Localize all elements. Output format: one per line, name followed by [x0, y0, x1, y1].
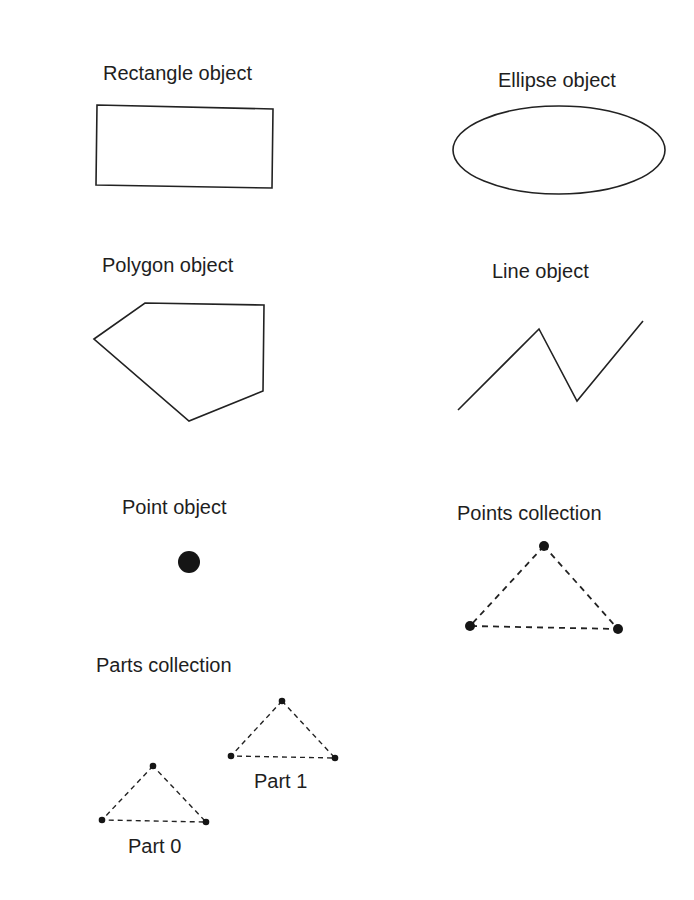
part-0-label: Part 0 [128, 835, 181, 858]
diagram-canvas [0, 0, 694, 900]
vertex-point [99, 817, 106, 824]
point-label: Point object [122, 496, 227, 519]
ellipse-label: Ellipse object [498, 69, 616, 92]
rectangle-shape [96, 105, 273, 188]
vertex-point [465, 621, 475, 631]
polygon-shape [94, 303, 264, 421]
part-0-shape [99, 763, 210, 826]
point-shape [178, 551, 200, 573]
vertex-point [228, 753, 235, 760]
part-1-label: Part 1 [254, 770, 307, 793]
vertex-point [279, 698, 286, 705]
parts-collection-label: Parts collection [96, 654, 232, 677]
vertex-point [613, 624, 623, 634]
part-1-shape [228, 698, 339, 762]
vertex-point [332, 755, 339, 762]
vertex-point [539, 541, 549, 551]
vertex-point [203, 819, 210, 826]
polygon-label: Polygon object [102, 254, 233, 277]
points-collection-shape [465, 541, 623, 634]
points-collection-label: Points collection [457, 502, 602, 525]
vertex-point [150, 763, 157, 770]
line-shape [458, 321, 643, 410]
ellipse-shape [453, 106, 665, 194]
rectangle-label: Rectangle object [103, 62, 252, 85]
line-label: Line object [492, 260, 589, 283]
